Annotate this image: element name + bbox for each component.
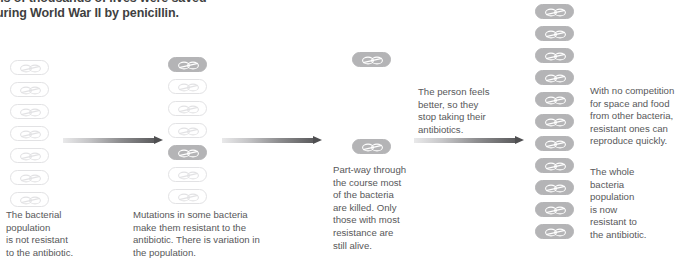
bacterium-resistant [535, 4, 574, 19]
process-arrow-icon [222, 136, 322, 145]
bacterium-dna-icon [544, 206, 567, 215]
bacterium-resistant [535, 92, 574, 107]
bacterium-resistant [535, 136, 574, 151]
arrow-head [154, 136, 163, 144]
arrow-shaft [222, 138, 313, 143]
arrow-shaft [63, 138, 154, 143]
caption-2: Mutations in some bacteria make them res… [133, 209, 293, 259]
bacterium-dna-icon [544, 96, 567, 105]
bacterium-resistant [535, 180, 574, 195]
bacterium-dna-icon [544, 118, 567, 127]
bacterium-dna-icon [177, 83, 200, 92]
bacterium-resistant [535, 224, 574, 239]
bacterium-resistant [535, 202, 574, 217]
bacterium-resistant [535, 70, 574, 85]
bacterium-non-resistant [168, 189, 207, 204]
bacterium-resistant [535, 114, 574, 129]
bacterium-dna-icon [19, 64, 42, 73]
caption-3: Part-way through the course most of the … [333, 164, 433, 252]
bacterium-dna-icon [177, 61, 200, 70]
bacterium-dna-icon [544, 74, 567, 83]
bacterium-resistant [535, 48, 574, 63]
bacterium-non-resistant [10, 82, 49, 97]
bacterium-non-resistant [168, 167, 207, 182]
bacterium-dna-icon [544, 8, 567, 17]
process-arrow-icon [63, 136, 163, 145]
bacterium-dna-icon [177, 105, 200, 114]
caption-1: The bacterial population is not resistan… [6, 209, 116, 259]
process-arrow-icon [414, 136, 524, 145]
bacterium-dna-icon [19, 196, 42, 205]
bacterium-dna-icon [177, 127, 200, 136]
bacterium-non-resistant [168, 101, 207, 116]
bacterium-resistant [352, 139, 391, 154]
bacterium-dna-icon [544, 228, 567, 237]
bacterium-resistant [535, 158, 574, 173]
bacterium-resistant [168, 145, 207, 160]
bacterium-dna-icon [361, 56, 384, 65]
bacterium-dna-icon [19, 174, 42, 183]
caption-4: The whole bacteria population is now res… [590, 166, 685, 242]
arrow-head [313, 136, 322, 144]
bacterium-non-resistant [10, 60, 49, 75]
bacterium-non-resistant [10, 126, 49, 141]
bacterium-dna-icon [544, 30, 567, 39]
bacterium-non-resistant [10, 170, 49, 185]
bacterium-dna-icon [544, 162, 567, 171]
bacterium-dna-icon [19, 86, 42, 95]
bacterium-resistant [352, 52, 391, 67]
annotation-no-competition: With no competition for space and food f… [590, 85, 685, 148]
bacterium-non-resistant [10, 192, 49, 207]
bacterium-dna-icon [19, 108, 42, 117]
bacterium-dna-icon [544, 184, 567, 193]
bacterium-non-resistant [10, 104, 49, 119]
bacterium-dna-icon [19, 130, 42, 139]
arrow-shaft [414, 138, 515, 143]
bacterium-non-resistant [10, 148, 49, 163]
bacterium-dna-icon [177, 193, 200, 202]
bacterium-resistant [535, 26, 574, 41]
antibiotic-resistance-diagram: ns of thousands of lives were saved urin… [0, 0, 685, 264]
diagram-heading: ns of thousands of lives were saved urin… [0, 0, 416, 21]
bacterium-dna-icon [544, 140, 567, 149]
bacterium-dna-icon [361, 143, 384, 152]
bacterium-resistant [168, 57, 207, 72]
bacterium-non-resistant [168, 123, 207, 138]
bacterium-dna-icon [544, 52, 567, 61]
annotation-stop-antibiotics: The person feels better, so they stop ta… [418, 86, 533, 136]
bacterium-non-resistant [168, 79, 207, 94]
arrow-head [515, 136, 524, 144]
bacterium-dna-icon [177, 171, 200, 180]
bacterium-dna-icon [19, 152, 42, 161]
bacterium-dna-icon [177, 149, 200, 158]
